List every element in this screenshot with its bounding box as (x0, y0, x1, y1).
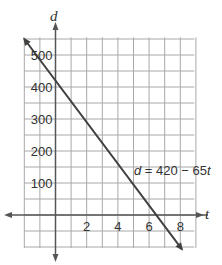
x-tick-label: 6 (145, 219, 152, 234)
tick-labels: 1002003004005002468 (31, 48, 184, 234)
y-tick-label: 500 (31, 48, 53, 63)
y-tick-label: 200 (31, 144, 53, 159)
y-tick-label: 400 (31, 80, 53, 95)
line-chart: 1002003004005002468 d t d = 420 − 65t (0, 0, 222, 265)
grid (24, 37, 196, 248)
y-tick-label: 100 (31, 176, 53, 191)
x-tick-label: 2 (83, 219, 90, 234)
y-tick-label: 300 (31, 112, 53, 127)
x-axis-label: t (205, 206, 210, 222)
equation-label: d = 420 − 65t (134, 163, 212, 178)
x-tick-label: 8 (177, 219, 184, 234)
x-tick-label: 4 (114, 219, 121, 234)
y-axis-label: d (50, 8, 58, 24)
